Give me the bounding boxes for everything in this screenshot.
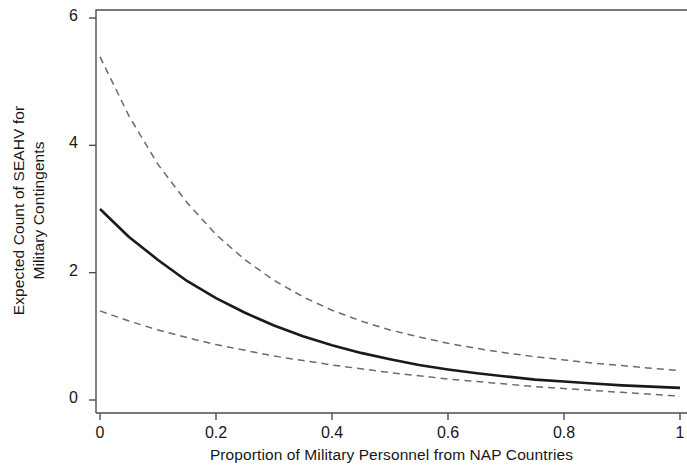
x-tick-label-5: 1 [650, 424, 687, 442]
x-tick-label-2: 0.4 [302, 424, 362, 442]
x-tick-label-1: 0.2 [186, 424, 246, 442]
chart-figure: Expected Count of SEAHV for Military Con… [0, 0, 687, 473]
x-tick-label-4: 0.8 [534, 424, 594, 442]
x-tick-label-3: 0.6 [418, 424, 478, 442]
x-axis-tick-labels: 00.20.40.60.81 [0, 0, 687, 473]
x-tick-label-0: 0 [70, 424, 130, 442]
x-axis-title: Proportion of Military Personnel from NA… [96, 446, 687, 464]
